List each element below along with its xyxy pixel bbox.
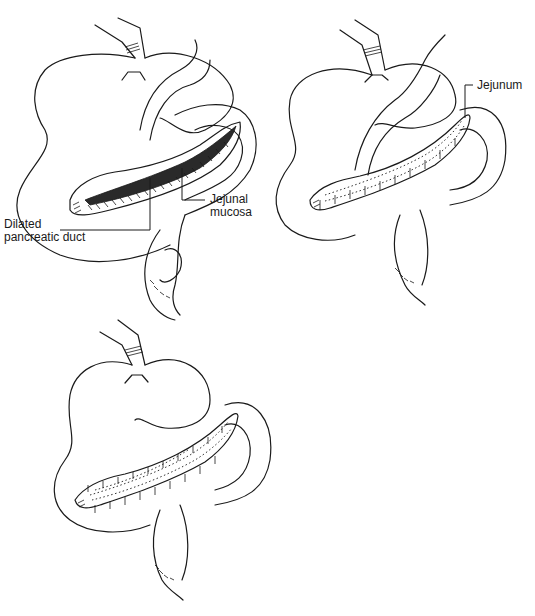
panel-a-drawing: [17, 18, 256, 320]
leader-jejunum: [465, 85, 473, 118]
panel-b-drawing: [276, 20, 506, 305]
label-jejunum: Jejunum: [477, 79, 522, 92]
label-dilated-pancreatic-duct: Dilated pancreatic duct: [4, 218, 85, 244]
panel-c-drawing: [54, 320, 270, 600]
label-jejunal-mucosa: Jejunal mucosa: [210, 193, 252, 219]
label-dilated-line2: pancreatic duct: [4, 231, 85, 244]
label-mucosa-line2: mucosa: [210, 206, 252, 219]
label-jejunum-line1: Jejunum: [477, 79, 522, 92]
surgical-illustration: [0, 0, 535, 616]
